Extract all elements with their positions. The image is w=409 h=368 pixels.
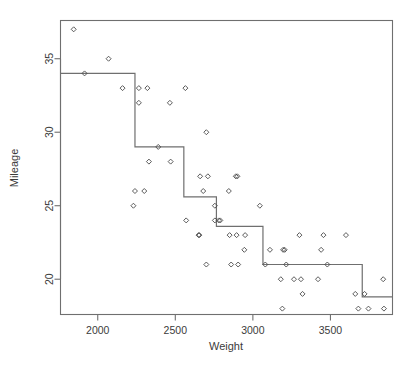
y-axis-tick-label: 30 <box>44 126 56 138</box>
chart-page: 2000250030003500 20253035 Weight Mileage <box>0 0 409 368</box>
x-axis-tick-label: 3000 <box>241 324 265 336</box>
plot-background <box>0 0 409 368</box>
x-axis-title: Weight <box>209 340 243 352</box>
y-axis-tick-label: 20 <box>44 273 56 285</box>
x-axis-tick-label: 2500 <box>164 324 188 336</box>
y-axis-title: Mileage <box>8 149 20 188</box>
y-axis-tick-label: 35 <box>44 53 56 65</box>
x-axis-tick-label: 2000 <box>86 324 110 336</box>
mileage-vs-weight-scatter-plot: 2000250030003500 20253035 Weight Mileage <box>0 0 409 368</box>
y-axis-tick-label: 25 <box>44 200 56 212</box>
x-axis-tick-label: 3500 <box>319 324 343 336</box>
